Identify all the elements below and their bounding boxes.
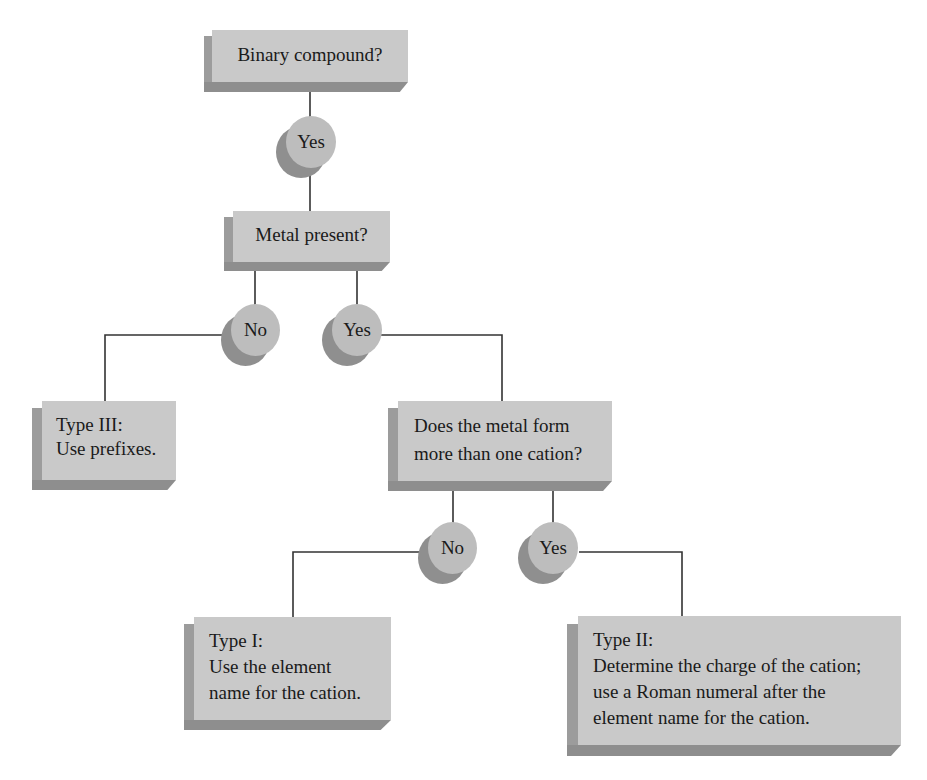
edge-yes-multi (381, 335, 502, 402)
node-multiple-cations: Does the metal form more than one cation… (388, 401, 612, 491)
decision-label: Yes (343, 319, 371, 341)
decision-yes-metal: Yes (322, 304, 384, 366)
node-line: Type II: (593, 628, 901, 652)
naming-flowchart: Binary compound? Yes Metal present? No Y… (0, 0, 927, 780)
node-line: Type III: (56, 413, 176, 437)
decision-label: Yes (539, 537, 567, 559)
node-type-three: Type III: Use prefixes. (32, 401, 176, 490)
edge-yes-type2 (579, 552, 682, 617)
edge-no-type3 (105, 335, 231, 402)
node-line: more than one cation? (414, 442, 612, 466)
node-line: name for the cation. (209, 681, 391, 705)
decision-no-metal: No (221, 304, 281, 366)
decision-label: No (244, 319, 267, 341)
node-line: Use the element (209, 655, 391, 679)
decision-yes-binary: Yes (276, 116, 338, 178)
node-line: Use prefixes. (56, 437, 176, 461)
node-binary-compound: Binary compound? (204, 30, 408, 92)
node-line: Does the metal form (414, 414, 612, 438)
decision-label: Yes (297, 131, 325, 153)
decision-yes-cation: Yes (518, 522, 580, 584)
node-line: Type I: (209, 629, 391, 653)
node-metal-present: Metal present? (224, 211, 390, 271)
node-line: use a Roman numeral after the (593, 680, 901, 704)
node-type-two: Type II: Determine the charge of the cat… (567, 616, 901, 756)
node-label: Binary compound? (237, 44, 382, 65)
node-line: element name for the cation. (593, 706, 901, 730)
decision-no-cation: No (418, 522, 478, 584)
node-line: Determine the charge of the cation; (593, 654, 901, 678)
edge-no-type1 (293, 552, 428, 618)
decision-label: No (441, 537, 464, 559)
node-label: Metal present? (255, 224, 367, 245)
node-type-one: Type I: Use the element name for the cat… (184, 617, 391, 730)
